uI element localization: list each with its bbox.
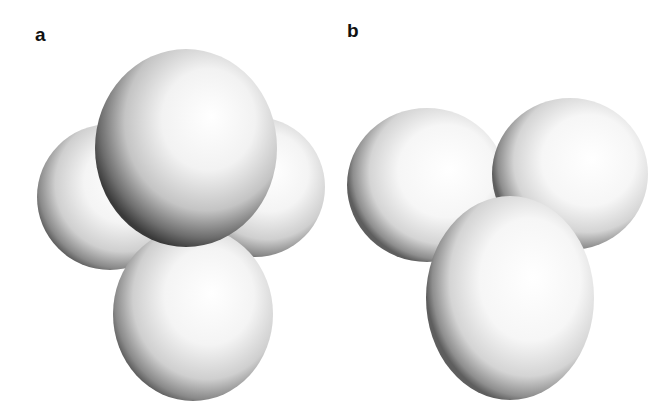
- top-front-sphere: [95, 49, 277, 247]
- sphere-diagram: [0, 0, 669, 414]
- bottom-sphere: [113, 227, 273, 401]
- panel-a: [37, 49, 325, 401]
- bottom-front-sphere: [426, 196, 594, 400]
- panel-b: [347, 98, 648, 400]
